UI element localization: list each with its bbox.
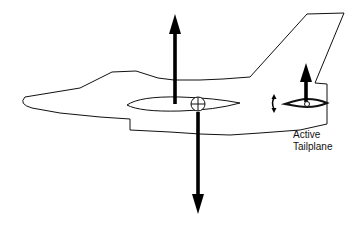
active-tailplane-label: Active Tailplane	[293, 129, 332, 153]
wing-lift-arrow-head	[169, 14, 181, 34]
pitch-rotation-icon	[272, 94, 277, 113]
weight-arrow-head	[192, 194, 204, 214]
main-wing-airfoil	[127, 97, 240, 111]
center-of-gravity-icon	[191, 97, 205, 111]
active-tailplane-label-line1: Active	[293, 129, 332, 141]
aircraft-force-diagram	[0, 0, 358, 226]
tail-force-arrow-head	[300, 63, 312, 82]
active-tailplane-label-line2: Tailplane	[293, 141, 332, 153]
fuselage-outline	[23, 13, 344, 135]
tailplane-pivot-icon	[305, 102, 310, 107]
